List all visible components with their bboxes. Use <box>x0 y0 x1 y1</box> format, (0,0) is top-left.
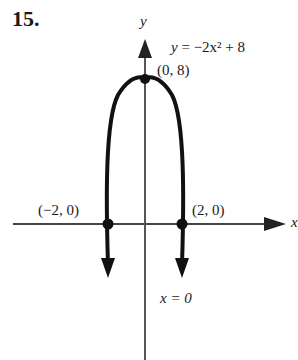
right-intercept-point <box>177 219 188 230</box>
left-intercept-point <box>103 219 114 230</box>
x-axis-label: x <box>291 214 298 231</box>
vertex-point <box>140 74 150 84</box>
y-axis-arrow-icon <box>138 39 152 58</box>
left-branch-arrow-icon <box>101 258 115 278</box>
equation-label: y = −2x² + 8 <box>171 39 245 56</box>
axis-of-symmetry-label: x = 0 <box>160 290 192 307</box>
parabola-graph <box>0 0 298 360</box>
equation-rhs: = −2x² + 8 <box>181 39 245 55</box>
right-intercept-label: (2, 0) <box>192 202 225 219</box>
x-axis-arrow-icon <box>264 217 286 231</box>
right-branch-arrow-icon <box>175 258 189 278</box>
left-intercept-label: (−2, 0) <box>38 202 79 219</box>
y-axis-label: y <box>140 13 147 30</box>
vertex-label: (0, 8) <box>157 62 190 79</box>
equation-lhs: y <box>171 39 178 55</box>
